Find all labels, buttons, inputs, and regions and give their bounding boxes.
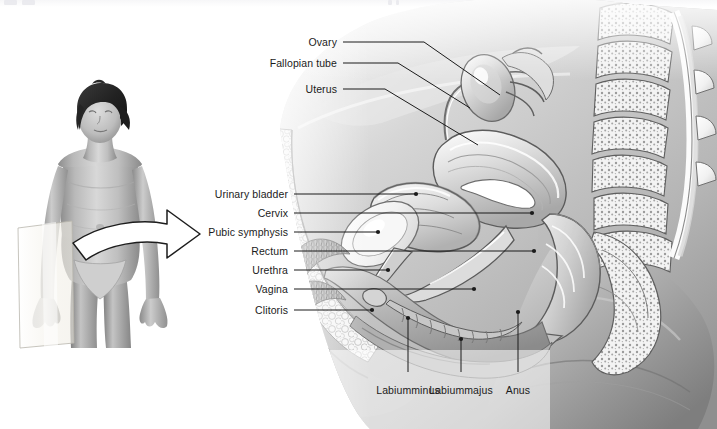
leader-dot-anus bbox=[516, 310, 520, 314]
label-labium-minus-line1: Labium bbox=[376, 384, 411, 396]
label-uterus: Uterus bbox=[117, 83, 337, 95]
label-cervix: Cervix bbox=[68, 207, 288, 219]
label-pubic-symphysis: Pubic symphysis bbox=[68, 226, 288, 238]
leader-line-fallopian-tube bbox=[343, 63, 470, 108]
label-rectum: Rectum bbox=[68, 245, 288, 257]
label-anus-line1: Anus bbox=[506, 384, 530, 396]
label-urinary-bladder: Urinary bladder bbox=[68, 188, 288, 200]
leader-dot-labium-majus bbox=[459, 337, 463, 341]
leader-dot-rectum bbox=[532, 249, 536, 253]
leader-line-ovary bbox=[343, 42, 500, 95]
leader-dot-clitoris bbox=[370, 308, 374, 312]
label-fallopian-tube: Fallopian tube bbox=[117, 57, 337, 69]
label-labium-majus-line1: Labium bbox=[429, 384, 464, 396]
leader-lines-lower bbox=[294, 194, 534, 310]
leader-dot-pubic-symphysis bbox=[376, 230, 380, 234]
label-vagina: Vagina bbox=[68, 283, 288, 295]
label-anus: Anus bbox=[473, 384, 563, 396]
leader-dot-urinary-bladder bbox=[414, 192, 418, 196]
leader-line-uterus bbox=[343, 89, 478, 145]
leader-dot-urethra bbox=[386, 268, 390, 272]
anatomy-figure: OvaryFallopian tubeUterus Urinary bladde… bbox=[0, 0, 717, 429]
leader-dot-vagina bbox=[472, 287, 476, 291]
leader-lines-bottom bbox=[408, 312, 518, 372]
leader-dots bbox=[370, 192, 536, 341]
leader-dot-cervix bbox=[530, 211, 534, 215]
label-urethra: Urethra bbox=[68, 264, 288, 276]
label-ovary: Ovary bbox=[117, 36, 337, 48]
label-clitoris: Clitoris bbox=[68, 304, 288, 316]
leader-dot-labium-minus bbox=[406, 316, 410, 320]
leader-lines-upper bbox=[343, 42, 500, 145]
